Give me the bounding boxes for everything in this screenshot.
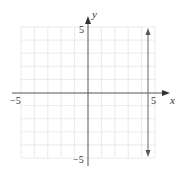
x-axis: [12, 90, 170, 96]
x-min-tick-label: −5: [10, 95, 21, 106]
y-axis-arrow-icon: [85, 16, 91, 24]
line-down-arrow-icon: [146, 150, 151, 157]
y-axis: [85, 16, 91, 166]
y-max-tick-label: 5: [79, 24, 84, 35]
coordinate-plane: y x 5 −5 −5 5: [0, 0, 182, 174]
x-axis-arrow-icon: [162, 90, 170, 96]
x-max-tick-label: 5: [151, 95, 156, 106]
y-min-tick-label: −5: [73, 154, 84, 165]
line-up-arrow-icon: [146, 28, 151, 35]
y-axis-label: y: [91, 8, 97, 20]
x-axis-label: x: [169, 94, 175, 106]
